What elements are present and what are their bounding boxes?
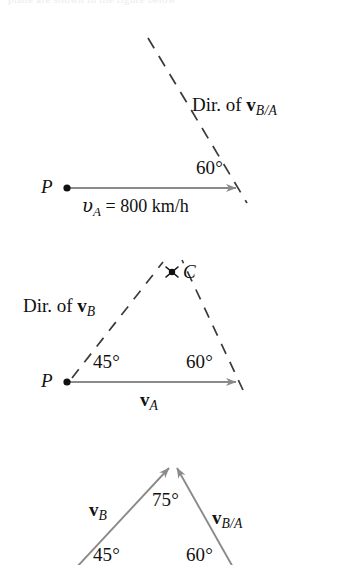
panel1-dir-subscript: B/A xyxy=(256,103,277,118)
point-c-marker xyxy=(166,267,178,277)
panel3-angle-60-label: 60° xyxy=(186,545,213,564)
panel3-left-vector-symbol: v xyxy=(89,499,99,520)
panel1-direction-label: Dir. of vB/A xyxy=(192,95,277,118)
panel3-left-vector-label: vB xyxy=(89,500,107,523)
panel2-point-p-label: P xyxy=(41,371,53,390)
panel2-angle-45-label: 45° xyxy=(93,352,120,371)
panel2-point-c-label: C xyxy=(183,262,196,281)
dashed-direction-line-b-over-a xyxy=(148,38,247,203)
panel3-left-subscript: B xyxy=(99,508,108,523)
panel2-base-subscript: A xyxy=(150,398,159,413)
panel2-angle-60-label: 60° xyxy=(186,352,213,371)
panel1-speed-label: υA = 800 km/h xyxy=(82,197,189,219)
panel1-dir-vector-symbol: v xyxy=(246,94,256,115)
panel3-angle-75-label: 75° xyxy=(152,490,179,509)
point-p-dot-panel2 xyxy=(63,378,70,385)
panel3-right-subscript: B/A xyxy=(222,516,243,531)
panel2-direction-label: Dir. of vB xyxy=(23,296,95,319)
panel3-right-vector-symbol: v xyxy=(212,507,222,528)
panel1-angle-60-label: 60° xyxy=(196,158,223,177)
panel1-speed-value: = 800 km/h xyxy=(106,196,189,216)
panel1-point-p-label: P xyxy=(41,177,53,196)
panel-2-geometry xyxy=(63,260,243,390)
panel3-angle-45-label: 45° xyxy=(93,545,120,564)
panel1-speed-subscript: A xyxy=(93,204,101,219)
panel2-base-vector-symbol: v xyxy=(140,389,150,410)
panel1-speed-symbol: υ xyxy=(82,195,93,216)
panel1-dir-prefix: Dir. of xyxy=(192,94,246,115)
panel2-dir-prefix: Dir. of xyxy=(23,295,77,316)
panel2-dir-subscript: B xyxy=(87,304,96,319)
panel2-dir-vector-symbol: v xyxy=(77,295,87,316)
point-p-dot-panel1 xyxy=(63,184,70,191)
panel-1-geometry xyxy=(63,38,247,203)
panel2-base-vector-label: vA xyxy=(140,390,158,413)
panel3-right-vector-label: vB/A xyxy=(212,508,243,531)
